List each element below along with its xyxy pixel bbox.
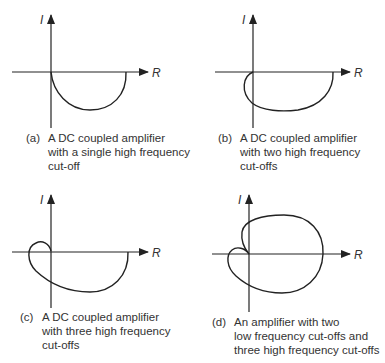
panel-d-plot: I R	[212, 193, 363, 312]
panel-b-plot: I R	[215, 13, 363, 128]
panel-b-curve	[244, 72, 333, 111]
panel-c-caption-line-1: A DC coupled amplifier	[42, 311, 159, 323]
panel-d-caption-line-3: three high frequency cut-offs	[212, 343, 380, 357]
panel-b-imag-label: I	[242, 13, 246, 27]
panel-c-caption: (c)A DC coupled amplifier with three hig…	[20, 310, 171, 352]
panel-a-caption-line-1: A DC coupled amplifier	[48, 132, 165, 144]
panel-b-caption-line-2: with two high frequency	[218, 145, 360, 159]
panel-b-caption-line-3: cut-offs	[218, 159, 360, 173]
panel-a-curve	[51, 72, 126, 110]
panel-c-real-label: R	[152, 246, 161, 260]
panel-a-caption-line-3: cut-off	[26, 159, 190, 173]
nyquist-diagrams: I R I R I R I R	[0, 0, 385, 363]
panel-a-caption: (a)A DC coupled amplifier with a single …	[26, 131, 190, 173]
panel-a-tag: (a)	[26, 131, 48, 145]
panel-b-caption-line-1: A DC coupled amplifier	[240, 132, 357, 144]
panel-d-real-label: R	[354, 248, 363, 262]
panel-d-imag-label: I	[238, 193, 242, 207]
panel-b-caption: (b)A DC coupled amplifier with two high …	[218, 131, 360, 173]
panel-d-caption-line-2: low frequency cut-offs and	[212, 329, 380, 343]
panel-c-curve	[29, 242, 128, 292]
panel-a-plot: I R	[12, 13, 161, 128]
panel-a-caption-line-2: with a single high frequency	[26, 145, 190, 159]
panel-c-caption-line-2: with three high frequency	[20, 324, 171, 338]
panel-b-real-label: R	[354, 66, 363, 80]
panel-c-tag: (c)	[20, 310, 42, 324]
panel-d-caption-line-1: An amplifier with two	[234, 316, 339, 328]
panel-d-caption: (d)An amplifier with two low frequency c…	[212, 315, 380, 357]
panel-d-tag: (d)	[212, 315, 234, 329]
panel-c-caption-line-3: cut-offs	[20, 338, 171, 352]
panel-c-plot: I R	[12, 193, 161, 308]
panel-b-tag: (b)	[218, 131, 240, 145]
panel-a-imag-label: I	[40, 13, 44, 27]
panel-a-real-label: R	[152, 66, 161, 80]
panel-c-imag-label: I	[40, 193, 44, 207]
